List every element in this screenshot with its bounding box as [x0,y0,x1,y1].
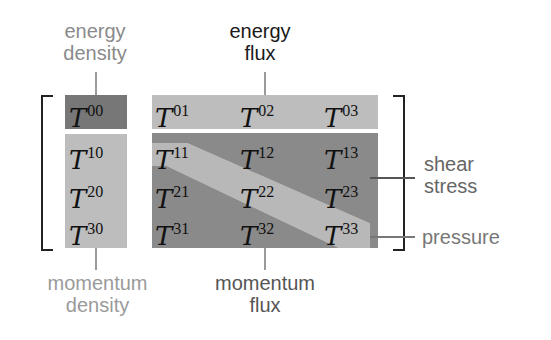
momentum-flux-box: T11 T12 T13 T21 T22 T23 T31 T32 T33 [152,133,378,248]
tensor-cell-t01: T01 [155,96,189,133]
pressure-label-text: pressure [422,226,532,248]
tensor-cell-t00: T00 [69,96,103,133]
energy-density-label: energy density [40,20,150,64]
tensor-cell-t12: T12 [240,138,274,175]
energy-flux-label: energy flux [205,20,315,64]
energy-density-box: T00 [65,95,127,129]
tensor-cell-t21: T21 [155,177,189,214]
energy-flux-label-line2: flux [205,42,315,64]
tensor-cell-t33: T33 [324,214,358,248]
tensor-cell-t11: T11 [155,138,189,175]
energy-flux-box: T01 T02 T03 [152,95,378,129]
energy-density-label-line2: density [40,42,150,64]
tensor-cell-t32: T32 [240,214,274,248]
tensor-cell-t10: T10 [69,138,103,175]
tensor-cell-t22: T22 [240,177,274,214]
tensor-cell-t20: T20 [69,177,103,214]
energy-density-connector [95,72,97,95]
tensor-cell-t30: T30 [69,214,103,251]
pressure-label: pressure [422,226,532,248]
momentum-flux-label-line2: flux [190,294,340,316]
shear-stress-label: shear stress [424,153,524,197]
momentum-flux-connector [264,248,266,270]
pressure-connector [370,236,415,238]
left-bracket [41,95,53,251]
momentum-density-box: T10 T20 T30 [65,134,127,248]
shear-stress-label-line2: stress [424,175,524,197]
tensor-cell-t31: T31 [155,214,189,248]
shear-stress-connector [370,177,415,179]
energy-flux-label-line1: energy [205,20,315,42]
momentum-density-connector [95,248,97,270]
shear-stress-label-line1: shear [424,153,524,175]
momentum-flux-label-line1: momentum [190,272,340,294]
tensor-cell-t02: T02 [240,96,274,133]
tensor-cell-t03: T03 [324,96,358,133]
momentum-density-label-line1: momentum [25,272,170,294]
tensor-cell-t23: T23 [324,177,358,214]
momentum-density-label: momentum density [25,272,170,316]
momentum-flux-label: momentum flux [190,272,340,316]
energy-flux-connector [264,72,266,95]
right-bracket [393,95,405,251]
energy-density-label-line1: energy [40,20,150,42]
momentum-density-label-line2: density [25,294,170,316]
tensor-cell-t13: T13 [324,138,358,175]
